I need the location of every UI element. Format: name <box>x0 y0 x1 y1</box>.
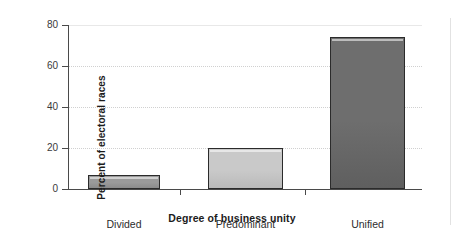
plot-area: 80 60 40 20 0 Divided <box>68 25 422 189</box>
y-tick-label-80: 80 <box>47 20 58 30</box>
scan-artifact-line <box>450 18 451 225</box>
bar-unified <box>330 37 405 189</box>
x-tick-divider-1 <box>180 189 181 195</box>
bar-chart-figure: 80 60 40 20 0 Divided <box>0 0 464 243</box>
y-axis-title: Percent of electoral races <box>96 63 107 213</box>
bar-predominant-shadow <box>282 152 286 189</box>
y-tick-80: 80 <box>62 25 68 26</box>
bar-unified-shadow <box>404 41 408 189</box>
y-tick-label-20: 20 <box>47 143 58 153</box>
y-tick-label-40: 40 <box>47 102 58 112</box>
x-axis-line <box>68 189 422 190</box>
x-tick-divider-2 <box>305 189 306 195</box>
y-tick-label-0: 0 <box>52 184 58 194</box>
bar-predominant <box>208 148 283 189</box>
bar-predominant-highlight <box>210 150 281 152</box>
x-axis-title: Degree of business unity <box>0 212 464 224</box>
y-tick-40: 40 <box>62 107 68 108</box>
y-tick-0: 0 <box>62 189 68 190</box>
y-tick-label-60: 60 <box>47 61 58 71</box>
bar-divided-shadow <box>159 179 163 189</box>
y-tick-20: 20 <box>62 148 68 149</box>
gridline-80 <box>68 25 422 27</box>
y-tick-60: 60 <box>62 66 68 67</box>
bar-unified-highlight <box>332 39 403 41</box>
y-axis-line <box>68 25 69 189</box>
